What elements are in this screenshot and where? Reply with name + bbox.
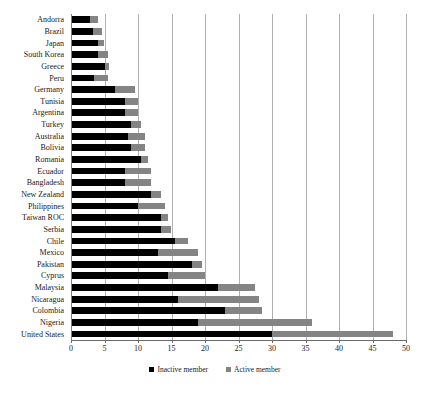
x-axis-tick-30	[272, 340, 273, 343]
bar-segment-active-member	[151, 191, 161, 198]
bar-row	[71, 293, 406, 305]
x-axis-tick-label-0: 0	[69, 344, 73, 354]
bar-stack	[71, 191, 161, 198]
bar-stack	[71, 144, 145, 151]
y-axis-label-brazil: Brazil	[44, 27, 64, 36]
x-axis-tick-45	[373, 340, 374, 343]
x-axis-tick-label-50: 50	[402, 344, 410, 354]
bar-stack	[71, 168, 151, 175]
y-axis-label-turkey: Turkey	[41, 120, 64, 129]
bar-segment-active-member	[125, 168, 152, 175]
bar-segment-inactive-member	[71, 51, 98, 58]
gridline-50	[406, 14, 407, 340]
bar-segment-inactive-member	[71, 16, 90, 23]
x-axis-tick-label-35: 35	[302, 344, 310, 354]
bar-segment-active-member	[98, 40, 105, 47]
bar-row	[71, 26, 406, 38]
bar-segment-inactive-member	[71, 272, 168, 279]
bar-row	[71, 328, 406, 340]
y-axis-label-andorra: Andorra	[37, 15, 64, 24]
y-axis-label-taiwan-roc: Taiwan ROC	[22, 213, 64, 222]
bar-row	[71, 49, 406, 61]
x-axis-tick-label-10: 10	[134, 344, 142, 354]
y-axis-label-nicaragua: Nicaragua	[31, 295, 64, 304]
bar-row	[71, 119, 406, 131]
bar-segment-inactive-member	[71, 109, 125, 116]
bar-segment-active-member	[158, 249, 198, 256]
x-axis-tick-5	[105, 340, 106, 343]
bar-segment-active-member	[138, 203, 165, 210]
bar-row	[71, 259, 406, 271]
bar-segment-active-member	[98, 51, 108, 58]
y-axis-line	[71, 14, 72, 340]
bar-segment-active-member	[175, 238, 188, 245]
bar-row	[71, 72, 406, 84]
bar-segment-active-member	[218, 284, 255, 291]
bar-stack	[71, 203, 165, 210]
y-axis-label-cyprus: Cyprus	[41, 271, 64, 280]
bar-segment-inactive-member	[71, 238, 175, 245]
bar-row	[71, 224, 406, 236]
bar-row	[71, 37, 406, 49]
bar-segment-active-member	[161, 226, 171, 233]
bar-row	[71, 96, 406, 108]
y-axis-label-malaysia: Malaysia	[35, 283, 64, 292]
y-axis-label-japan: Japan	[46, 39, 64, 48]
bar-segment-active-member	[90, 16, 98, 23]
legend-swatch-inactive-icon	[149, 367, 154, 372]
bar-row	[71, 130, 406, 142]
y-axis-label-germany: Germany	[34, 85, 64, 94]
bar-segment-inactive-member	[71, 86, 115, 93]
bar-segment-inactive-member	[71, 226, 161, 233]
bar-segment-inactive-member	[71, 284, 218, 291]
bar-stack	[71, 51, 108, 58]
bar-segment-active-member	[128, 133, 145, 140]
y-axis-label-romania: Romania	[35, 155, 64, 164]
bar-row	[71, 317, 406, 329]
x-axis-tick-label-25: 25	[235, 344, 243, 354]
bar-segment-active-member	[225, 307, 262, 314]
bar-row	[71, 189, 406, 201]
bar-row	[71, 107, 406, 119]
bar-segment-inactive-member	[71, 133, 128, 140]
bar-stack	[71, 63, 109, 70]
y-axis-tick-labels: AndorraBrazilJapanSouth KoreaGreecePeruG…	[0, 14, 68, 340]
x-axis-tick-10	[138, 340, 139, 343]
bar-segment-inactive-member	[71, 121, 131, 128]
plot-area	[71, 14, 406, 340]
bar-stack	[71, 249, 198, 256]
x-axis-tick-40	[339, 340, 340, 343]
bar-segment-active-member	[131, 121, 141, 128]
legend-item-inactive-member: Inactive member	[149, 365, 208, 374]
y-axis-label-ecuador: Ecuador	[37, 167, 64, 176]
bar-row	[71, 235, 406, 247]
bar-stack	[71, 86, 135, 93]
bar-row	[71, 84, 406, 96]
bar-row	[71, 282, 406, 294]
bar-segment-inactive-member	[71, 98, 125, 105]
bar-stack	[71, 133, 145, 140]
bar-segment-active-member	[178, 296, 258, 303]
bar-segment-active-member	[94, 75, 107, 82]
bar-stack	[71, 272, 205, 279]
y-axis-label-mexico: Mexico	[40, 248, 64, 257]
y-axis-label-peru: Peru	[49, 74, 64, 83]
x-axis-tick-20	[205, 340, 206, 343]
bar-segment-inactive-member	[71, 307, 225, 314]
legend-swatch-active-icon	[226, 367, 231, 372]
x-axis-tick-15	[172, 340, 173, 343]
bar-row	[71, 270, 406, 282]
bar-stack	[71, 98, 138, 105]
bar-segment-active-member	[125, 109, 138, 116]
y-axis-label-philippines: Philippines	[28, 202, 64, 211]
bar-row	[71, 165, 406, 177]
x-axis-tick-label-15: 15	[168, 344, 176, 354]
x-axis-tick-0	[71, 340, 72, 343]
bar-rows	[71, 14, 406, 340]
bar-stack	[71, 261, 202, 268]
bar-segment-inactive-member	[71, 28, 93, 35]
bar-segment-inactive-member	[71, 179, 125, 186]
x-axis-tick-25	[239, 340, 240, 343]
bar-segment-inactive-member	[71, 168, 125, 175]
y-axis-label-bangladesh: Bangladesh	[27, 178, 64, 187]
